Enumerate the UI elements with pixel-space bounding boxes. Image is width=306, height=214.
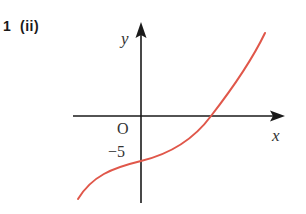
graph-sketch: y x O −5: [0, 0, 306, 214]
x-axis-label: x: [271, 126, 280, 145]
y-axis-label: y: [119, 29, 129, 48]
y-intercept-label: −5: [108, 143, 125, 160]
origin-label: O: [117, 120, 129, 137]
